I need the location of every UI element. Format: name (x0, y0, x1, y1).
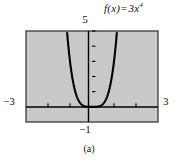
figure-caption: (a) (0, 143, 178, 154)
plot-svg (0, 0, 178, 163)
figure-container: f(x)=3x4 5 −3 3 −1 (a) (0, 0, 178, 163)
